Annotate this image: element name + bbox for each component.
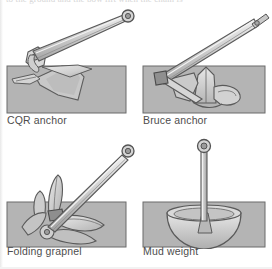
panel-caption-bruce-anchor: Bruce anchor	[143, 114, 207, 126]
panel-caption-cqr-anchor: CQR anchor	[7, 114, 67, 126]
cut-off-header-text: to the ground and the bow lift when the …	[6, 0, 268, 4]
mud-weight-head-ring-hole	[201, 143, 207, 149]
bruce-crown	[154, 71, 168, 85]
cqr-shackle-ring-hole	[125, 13, 130, 18]
bruce-shackle-pin	[255, 21, 260, 26]
panel-caption-mud-weight: Mud weight	[143, 245, 198, 257]
figure-panel-mud-weight: Mud weight	[136, 135, 272, 267]
anchor-types-figure: CQR anchor	[0, 5, 272, 269]
mud-weight-illustration	[136, 135, 272, 249]
folding-grapnel-illustration	[0, 135, 136, 249]
figure-panel-folding-grapnel: Folding grapnel	[0, 135, 136, 267]
figure-panel-bruce-anchor: Bruce anchor	[136, 5, 272, 137]
cqr-anchor-illustration	[0, 5, 136, 119]
cqr-shank-lowlight	[38, 19, 128, 59]
mud-weight-rod	[201, 151, 207, 221]
figure-panel-cqr-anchor: CQR anchor	[0, 5, 136, 137]
bruce-anchor-illustration	[136, 5, 272, 119]
panel-caption-folding-grapnel: Folding grapnel	[7, 245, 82, 257]
cqr-shank-highlight	[36, 16, 125, 53]
grapnel-crown-pin	[44, 229, 49, 234]
grapnel-head-ring-hole	[125, 148, 130, 153]
